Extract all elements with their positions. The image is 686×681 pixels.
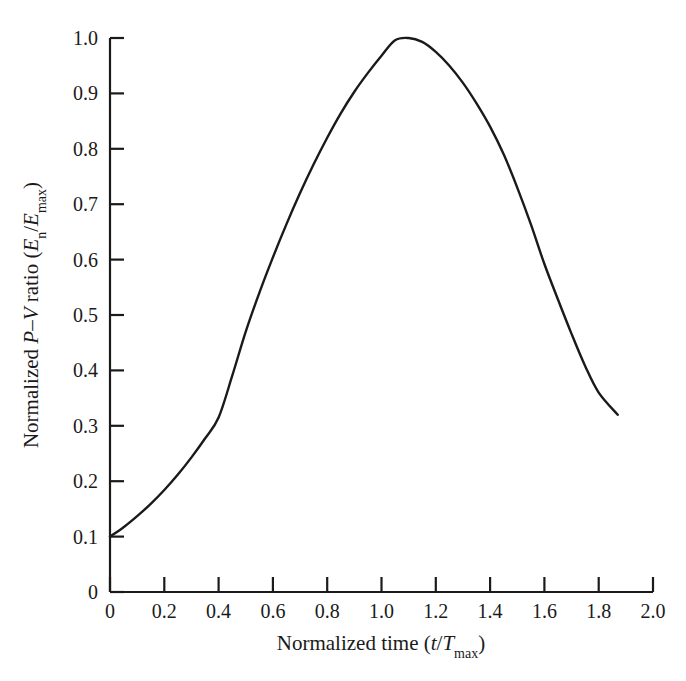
data-series-group bbox=[110, 38, 618, 537]
x-tick-label: 0 bbox=[105, 600, 115, 622]
y-tick-label: 0.8 bbox=[73, 138, 98, 160]
axes-group bbox=[110, 38, 653, 592]
chart-figure: 00.10.20.30.40.50.60.70.80.91.0 00.20.40… bbox=[0, 0, 686, 681]
x-axis-tick-labels: 00.20.40.60.81.01.21.41.61.82.0 bbox=[105, 600, 666, 622]
y-tick-label: 1.0 bbox=[73, 27, 98, 49]
x-tick-label: 1.6 bbox=[532, 600, 557, 622]
x-tick-label: 0.6 bbox=[260, 600, 285, 622]
y-tick-label: 0.7 bbox=[73, 193, 98, 215]
y-tick-label: 0.4 bbox=[73, 359, 98, 381]
y-tick-label: 0 bbox=[88, 581, 98, 603]
y-tick-label: 0.9 bbox=[73, 82, 98, 104]
y-tick-label: 0.5 bbox=[73, 304, 98, 326]
y-tick-label: 0.2 bbox=[73, 470, 98, 492]
x-tick-label: 2.0 bbox=[641, 600, 666, 622]
x-tick-label: 0.4 bbox=[206, 600, 231, 622]
x-tick-label: 1.0 bbox=[369, 600, 394, 622]
x-tick-label: 0.2 bbox=[152, 600, 177, 622]
x-tick-label: 1.4 bbox=[478, 600, 503, 622]
y-tick-label: 0.1 bbox=[73, 526, 98, 548]
y-axis-tick-labels: 00.10.20.30.40.50.60.70.80.91.0 bbox=[73, 27, 98, 603]
y-axis-ticks bbox=[110, 38, 124, 592]
x-tick-label: 0.8 bbox=[315, 600, 340, 622]
x-tick-label: 1.2 bbox=[423, 600, 448, 622]
x-axis-ticks bbox=[110, 577, 653, 592]
y-tick-label: 0.6 bbox=[73, 249, 98, 271]
chart-plot-area: 00.10.20.30.40.50.60.70.80.91.0 00.20.40… bbox=[0, 0, 686, 681]
y-tick-label: 0.3 bbox=[73, 415, 98, 437]
x-tick-label: 1.8 bbox=[586, 600, 611, 622]
x-axis-title: Normalized time (t/Tmax) bbox=[277, 631, 485, 661]
data-curve bbox=[110, 38, 618, 537]
y-axis-title: Normalized P–V ratio (En/Emax) bbox=[19, 182, 49, 448]
